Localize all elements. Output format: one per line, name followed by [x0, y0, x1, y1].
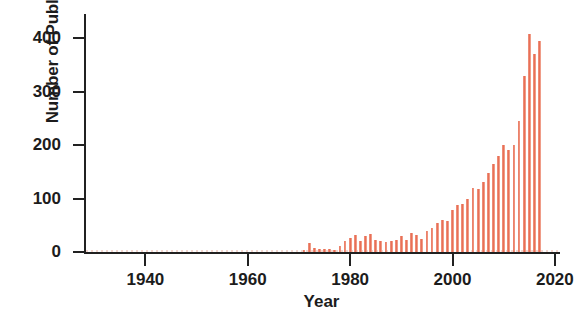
publications-per-year-bar-chart: Number of Publications 0100200300400 194…	[0, 0, 580, 320]
bar	[374, 240, 377, 252]
bar	[344, 241, 347, 252]
bar	[472, 188, 475, 252]
bar	[461, 204, 464, 252]
bar	[354, 235, 357, 252]
bar	[364, 236, 367, 252]
bar	[487, 173, 490, 252]
bar	[333, 250, 336, 252]
bar	[415, 235, 418, 252]
x-tick-label: 1940	[113, 270, 177, 290]
y-axis-label: Number of Publications	[41, 0, 65, 143]
y-tick-label: 100	[1, 189, 61, 209]
bar	[395, 240, 398, 252]
bar	[318, 249, 321, 252]
y-tick-label: 200	[1, 135, 61, 155]
bar	[538, 41, 541, 252]
bar	[451, 210, 454, 252]
x-tick-mark	[144, 254, 146, 266]
bar	[507, 150, 510, 252]
bar	[339, 246, 342, 252]
x-tick-label: 1980	[318, 270, 382, 290]
bar	[502, 145, 505, 252]
bar	[477, 189, 480, 252]
bar	[313, 248, 316, 252]
y-tick-label: 0	[1, 242, 61, 262]
x-tick-mark	[349, 254, 351, 266]
bar	[369, 234, 372, 252]
x-tick-label: 2000	[421, 270, 485, 290]
bar	[400, 236, 403, 252]
bar	[359, 241, 362, 252]
y-tick-label: 300	[1, 82, 61, 102]
bar	[446, 221, 449, 252]
x-tick-label: 1960	[216, 270, 280, 290]
bar	[436, 223, 439, 252]
bar	[328, 249, 331, 252]
x-tick-mark	[554, 254, 556, 266]
x-axis-label: Year	[84, 292, 559, 312]
bar	[390, 241, 393, 252]
bar	[410, 233, 413, 252]
y-tick-mark	[73, 251, 84, 253]
x-tick-mark	[452, 254, 454, 266]
bar	[385, 242, 388, 252]
bar	[308, 243, 311, 252]
y-tick-mark	[73, 144, 84, 146]
x-axis-line	[84, 252, 560, 254]
x-tick-mark	[247, 254, 249, 266]
bar	[528, 34, 531, 252]
bar	[349, 238, 352, 252]
y-tick-mark	[73, 198, 84, 200]
bar	[466, 199, 469, 252]
bar	[379, 241, 382, 252]
bar	[513, 145, 516, 252]
bar	[431, 228, 434, 252]
bar	[323, 249, 326, 252]
x-tick-label: 2020	[523, 270, 580, 290]
bar	[482, 182, 485, 252]
bar	[533, 54, 536, 252]
bar	[405, 240, 408, 252]
y-tick-mark	[73, 91, 84, 93]
y-tick-mark	[73, 37, 84, 39]
bar	[492, 164, 495, 252]
bar-series	[84, 14, 560, 252]
bar	[426, 231, 429, 252]
bar	[497, 156, 500, 252]
bar	[420, 239, 423, 252]
bar	[523, 76, 526, 252]
bar	[456, 205, 459, 252]
y-tick-label: 400	[1, 28, 61, 48]
bar	[303, 250, 306, 252]
bar	[441, 220, 444, 252]
bar	[518, 121, 521, 252]
